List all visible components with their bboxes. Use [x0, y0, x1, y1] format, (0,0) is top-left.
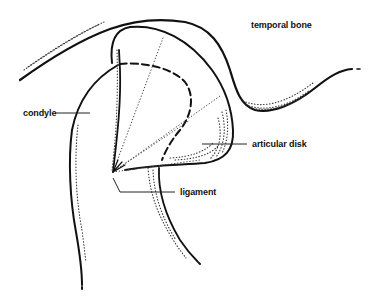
ramus-posterior: [148, 168, 200, 264]
leader-lines: [55, 113, 247, 192]
label-ligament: ligament: [180, 187, 216, 197]
tmj-diagram: [0, 0, 384, 300]
articular-disk-contour: [111, 27, 233, 170]
condyle-head-dashed: [120, 64, 191, 160]
ligament-leader: [113, 178, 175, 192]
label-temporal-bone: temporal bone: [251, 20, 312, 30]
temporal-bone-contour: [20, 20, 360, 111]
label-articular-disk: articular disk: [252, 139, 307, 149]
label-condyle: condyle: [23, 108, 56, 118]
condyle-neck: [70, 65, 118, 289]
